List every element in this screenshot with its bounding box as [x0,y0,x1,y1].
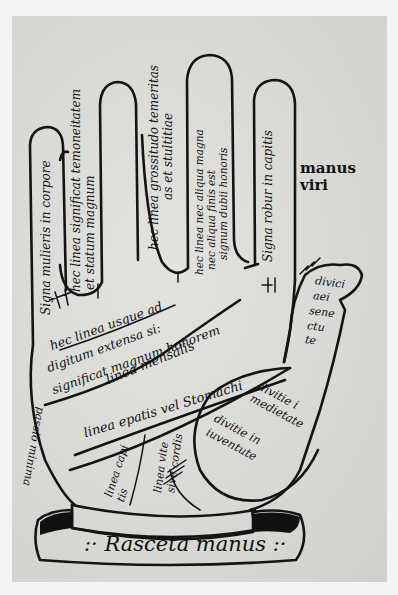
ring-finger-text-line1: hec linea significat temoneitatem [70,89,83,292]
index-right-finger-text: Signa robur in capitis [262,130,275,262]
side-label-line1: manus [300,160,356,177]
thumb-text-line5: te [304,334,316,347]
thumb-text-line2: aei [312,290,330,304]
banner-caption: :· Rasceta manus :· [84,532,287,556]
index-finger-text-line1: hec linea nec aliqua magna [194,129,205,275]
side-label-line2: viri [300,177,356,194]
little-finger-text: Signa mulieris in corpore [40,160,53,315]
ring-finger-text-line2: et statum magnum [84,175,97,290]
middle-finger-text-line2: as et stultitiae [162,113,175,200]
side-label: manus viri [300,160,356,194]
hand-diagram [0,0,398,595]
middle-finger-text-line1: hec linea grossitudo temeritas [148,65,161,250]
index-finger-text-line2: nec aliqua finis est [206,170,217,270]
index-finger-text-line3: signum dubii honoris [218,148,229,260]
thumb-text-line4: ctu [306,320,325,334]
